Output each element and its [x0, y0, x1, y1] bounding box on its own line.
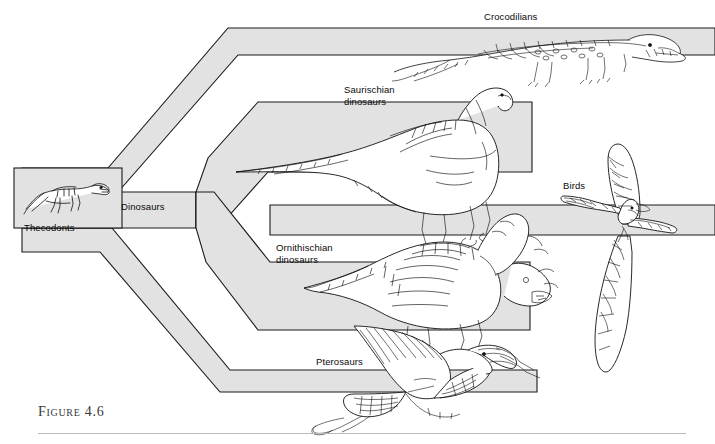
figure-caption: Figure 4.6	[38, 404, 104, 420]
root-box-thecodonts	[14, 168, 122, 228]
branch-band-birds	[270, 205, 715, 235]
branch-label-pterosaurs: Pterosaurs	[316, 356, 363, 368]
branch-label-birds: Birds	[563, 180, 585, 192]
figure-container: Dinosaurs Thecodonts Crocodilians Sauris…	[0, 0, 715, 444]
node-label-thecodonts: Thecodonts	[24, 222, 75, 234]
branch-label-crocodilians: Crocodilians	[484, 11, 537, 23]
node-label-dinosaurs: Dinosaurs	[121, 201, 165, 213]
figure-caption-area: Figure 4.6	[0, 398, 715, 444]
caption-divider	[38, 433, 686, 434]
cladogram-diagram	[0, 0, 715, 444]
branch-label-ornithischian: Ornithischian dinosaurs	[276, 242, 333, 265]
branch-label-saurischian: Saurischian dinosaurs	[344, 84, 395, 107]
